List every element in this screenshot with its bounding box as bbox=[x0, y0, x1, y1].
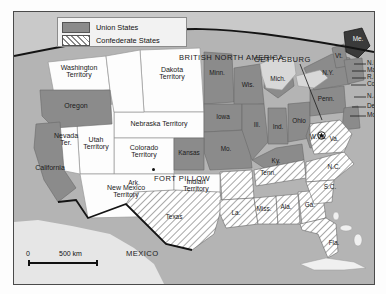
scale-tick-end bbox=[96, 260, 98, 266]
scale-line bbox=[28, 262, 98, 264]
state-arkansas bbox=[220, 170, 254, 200]
legend-label-confederate: Confederate States bbox=[96, 36, 160, 45]
state-alabama bbox=[276, 194, 300, 224]
state-nebraska-territory bbox=[114, 112, 204, 138]
state-minnesota bbox=[204, 52, 234, 104]
legend-label-union: Union States bbox=[96, 23, 138, 32]
state-washington-territory bbox=[48, 56, 110, 94]
state-oregon bbox=[40, 90, 112, 128]
scale-tick-start bbox=[28, 260, 30, 266]
confederate-swatch bbox=[62, 35, 90, 46]
state-iowa bbox=[204, 104, 242, 132]
washington-dc-capital-marker bbox=[317, 126, 326, 135]
state-louisiana bbox=[220, 198, 258, 228]
map-screenshot: Union States Confederate States 0 500 km… bbox=[0, 0, 386, 294]
map-frame: Union States Confederate States 0 500 km… bbox=[13, 11, 375, 285]
legend-item-union: Union States bbox=[62, 21, 182, 33]
state-dakota-territory bbox=[140, 48, 204, 112]
map-legend: Union States Confederate States bbox=[57, 17, 187, 47]
state-wisconsin bbox=[234, 64, 264, 106]
state-kansas bbox=[174, 138, 204, 170]
legend-item-confederate: Confederate States bbox=[62, 34, 182, 46]
scale-distance: 500 km bbox=[59, 250, 82, 257]
state-indiana bbox=[268, 108, 288, 144]
state-mississippi bbox=[254, 196, 278, 224]
scale-zero: 0 bbox=[26, 250, 30, 257]
state-colorado-territory bbox=[114, 138, 174, 174]
map-graphic bbox=[14, 12, 374, 284]
state-pennsylvania bbox=[310, 86, 346, 116]
union-swatch bbox=[62, 22, 90, 33]
scale-bar: 0 500 km bbox=[26, 250, 122, 266]
